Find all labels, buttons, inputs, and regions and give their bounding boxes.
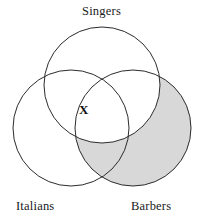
shaded-region-barbers-not-singers	[0, 0, 203, 219]
x-mark: X	[79, 103, 88, 116]
set-label-singers: Singers	[0, 4, 203, 19]
set-label-italians: Italians	[16, 199, 54, 214]
venn-diagram-canvas	[0, 0, 203, 219]
set-label-barbers: Barbers	[131, 199, 171, 214]
venn-diagram-figure: X Singers Italians Barbers	[0, 0, 203, 219]
